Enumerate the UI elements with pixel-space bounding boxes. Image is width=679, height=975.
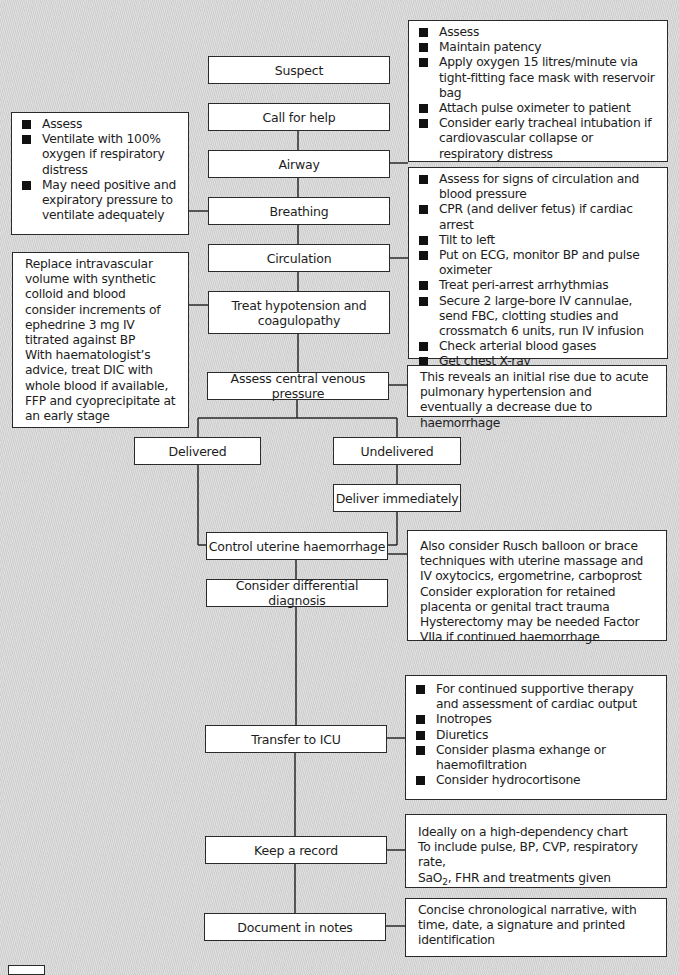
step-label: Call for help: [263, 110, 336, 125]
step-label: Airway: [278, 157, 319, 172]
step-differential-diagnosis: Consider differential diagnosis: [206, 579, 388, 607]
step-label: Deliver immediately: [336, 491, 459, 506]
square-bullet-icon: [419, 28, 428, 37]
note-airway: Assess Maintain patency Apply oxygen 15 …: [408, 20, 668, 162]
square-bullet-icon: [416, 715, 425, 724]
square-bullet-icon: [419, 119, 428, 128]
note-item: Diuretics: [416, 728, 658, 743]
square-bullet-icon: [419, 104, 428, 113]
step-deliver-immediately: Deliver immediately: [333, 484, 461, 512]
step-undelivered: Undelivered: [333, 437, 461, 465]
step-document-notes: Document in notes: [204, 913, 386, 941]
step-label: Transfer to ICU: [251, 732, 340, 747]
note-circulation: Assess for signs of circulation and bloo…: [408, 167, 668, 359]
square-bullet-icon: [419, 297, 428, 306]
note-line: Ideally on a high-dependency chart: [418, 825, 656, 840]
square-bullet-icon: [419, 281, 428, 290]
note-item: Attach pulse oximeter to patient: [419, 101, 659, 116]
note-item: Tilt to left: [419, 233, 659, 248]
note-item: Maintain patency: [419, 40, 659, 55]
step-label: Suspect: [275, 63, 323, 78]
step-label: Delivered: [168, 444, 226, 459]
step-keep-record: Keep a record: [205, 836, 387, 864]
note-paragraph: This reveals an initial rise due to acut…: [420, 370, 656, 431]
note-item: Assess: [22, 117, 180, 132]
square-bullet-icon: [22, 120, 31, 129]
note-item: CPR (and deliver fetus) if cardiac arres…: [419, 202, 659, 232]
note-item: Inotropes: [416, 712, 658, 727]
square-bullet-icon: [419, 175, 428, 184]
note-item: Ventilate with 100% oxygen if respirator…: [22, 132, 180, 178]
square-bullet-icon: [419, 205, 428, 214]
square-bullet-icon: [419, 58, 428, 67]
step-label: Breathing: [269, 204, 328, 219]
note-hypotension: Replace intravascular volume with synthe…: [12, 252, 189, 428]
note-haemorrhage: Also consider Rusch balloon or brace tec…: [407, 530, 667, 641]
note-paragraph: With haematologist’s advice, treat DIC w…: [25, 348, 178, 424]
square-bullet-icon: [416, 746, 425, 755]
step-label: Treat hypotension and coagulopathy: [221, 298, 377, 328]
note-item: Assess for signs of circulation and bloo…: [419, 172, 659, 202]
note-paragraph: Replace intravascular volume with synthe…: [25, 257, 178, 348]
step-delivered: Delivered: [134, 437, 261, 465]
note-item: Consider hydrocortisone: [416, 773, 658, 788]
step-label: Assess central venous pressure: [208, 371, 388, 401]
note-document: Concise chronological narrative, with ti…: [405, 898, 667, 957]
note-item: Apply oxygen 15 litres/minute via tight-…: [419, 55, 659, 101]
note-item: Check arterial blood gases: [419, 339, 659, 354]
note-item: Assess: [419, 25, 659, 40]
step-suspect: Suspect: [208, 56, 390, 84]
step-assess-cvp: Assess central venous pressure: [207, 372, 389, 400]
step-airway: Airway: [208, 150, 390, 178]
step-control-haemorrhage: Control uterine haemorrhage: [206, 532, 388, 560]
note-item: Treat peri-arrest arrhythmias: [419, 278, 659, 293]
step-treat-hypotension: Treat hypotension and coagulopathy: [208, 291, 390, 334]
step-transfer-icu: Transfer to ICU: [205, 725, 387, 753]
note-item: May need positive and expiratory pressur…: [22, 178, 180, 224]
note-item: For continued supportive therapy and ass…: [416, 682, 658, 712]
step-label: Document in notes: [237, 920, 352, 935]
step-label: Keep a record: [254, 843, 338, 858]
step-label: Undelivered: [360, 444, 433, 459]
note-item: Consider plasma exhange or haemofiltrati…: [416, 743, 658, 773]
note-paragraph: Also consider Rusch balloon or brace tec…: [420, 539, 656, 585]
square-bullet-icon: [416, 685, 425, 694]
note-paragraph: Concise chronological narrative, with ti…: [418, 903, 656, 949]
step-label: Circulation: [267, 251, 332, 266]
square-bullet-icon: [419, 251, 428, 260]
note-item: Put on ECG, monitor BP and pulse oximete…: [419, 248, 659, 278]
square-bullet-icon: [416, 731, 425, 740]
square-bullet-icon: [22, 135, 31, 144]
note-cvp: This reveals an initial rise due to acut…: [407, 365, 667, 417]
note-item: Consider early tracheal intubation if ca…: [419, 116, 659, 162]
square-bullet-icon: [419, 342, 428, 351]
step-circulation: Circulation: [208, 244, 390, 272]
square-bullet-icon: [419, 236, 428, 245]
square-bullet-icon: [416, 776, 425, 785]
note-paragraph: Hysterectomy may be needed Factor VIIa i…: [420, 615, 656, 645]
note-paragraph: Consider exploration for retained placen…: [420, 585, 656, 615]
step-label: Consider differential diagnosis: [207, 578, 387, 608]
note-icu: For continued supportive therapy and ass…: [405, 675, 667, 800]
square-bullet-icon: [22, 181, 31, 190]
note-line: To include pulse, BP, CVP, respiratory r…: [418, 840, 656, 870]
square-bullet-icon: [419, 43, 428, 52]
note-record: Ideally on a high-dependency chart To in…: [405, 814, 667, 888]
step-call-for-help: Call for help: [208, 103, 390, 131]
step-breathing: Breathing: [208, 197, 390, 225]
corner-marker: [8, 965, 45, 975]
step-label: Control uterine haemorrhage: [209, 539, 386, 554]
note-line: SaO2, FHR and treatments given: [418, 871, 656, 891]
note-item: Secure 2 large-bore IV cannulae, send FB…: [419, 294, 659, 340]
note-breathing: Assess Ventilate with 100% oxygen if res…: [11, 112, 189, 235]
